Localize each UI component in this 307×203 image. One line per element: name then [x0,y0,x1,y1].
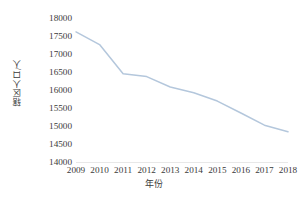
y-axis-tick-label: 16000 [26,86,72,95]
y-axis-title: 辖区人口/人 [10,0,26,165]
y-axis-tick-labels: 1800017500170001650016000155001500014500… [26,0,72,175]
y-axis-tick-label: 17500 [26,32,72,41]
x-axis-tick-label: 2016 [232,166,250,175]
series-line-population [76,32,288,132]
y-axis-tick-label: 14500 [26,140,72,149]
x-axis-tick-label: 2013 [161,166,179,175]
x-axis-tick-label: 2015 [208,166,226,175]
x-axis-title: 年份 [0,180,307,189]
x-axis-tick-label: 2010 [90,166,108,175]
x-axis-tick-label: 2018 [279,166,297,175]
y-axis-tick-label: 15000 [26,122,72,131]
y-axis-tick-label: 15500 [26,104,72,113]
y-axis-tick-label: 18000 [26,14,72,23]
series-svg [76,19,288,163]
line-chart: 辖区人口/人 180001750017000165001600015500150… [0,0,307,203]
x-axis-tick-label: 2017 [255,166,273,175]
x-axis-tick-label: 2014 [185,166,203,175]
plot-area [76,19,288,163]
y-axis-tick-label: 16500 [26,68,72,77]
x-axis-tick-label: 2012 [137,166,155,175]
x-axis-line [76,162,288,163]
x-axis-tick-label: 2011 [114,166,132,175]
x-axis-tick-label: 2009 [67,166,85,175]
y-axis-tick-label: 17000 [26,50,72,59]
